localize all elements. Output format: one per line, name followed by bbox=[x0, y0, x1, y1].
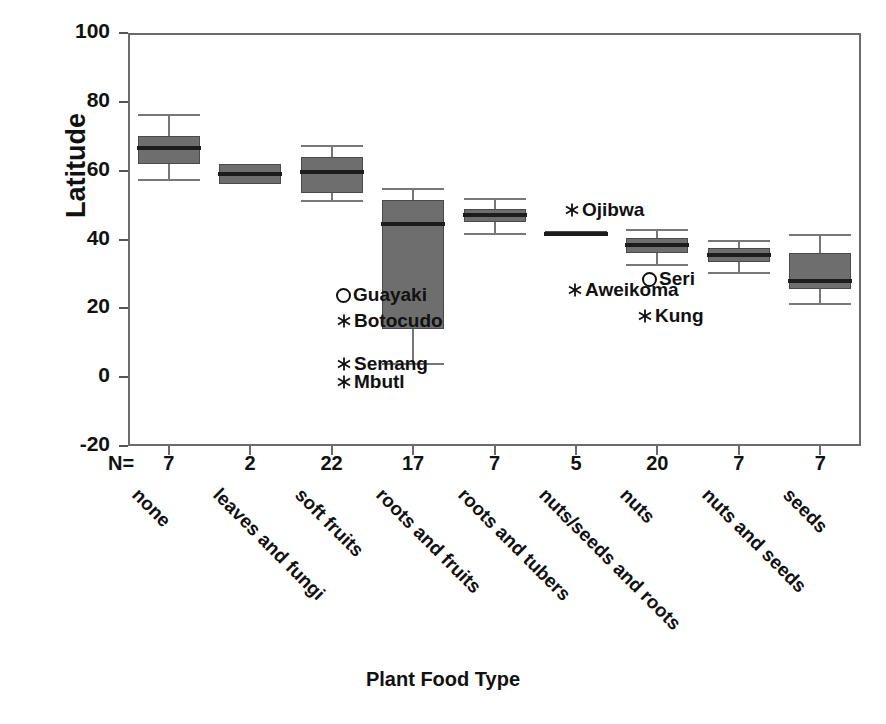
box-iqr bbox=[301, 157, 363, 193]
median-line bbox=[463, 213, 527, 217]
n-value: 5 bbox=[551, 452, 601, 475]
median-line bbox=[300, 170, 364, 174]
outlier-label-text: Kung bbox=[655, 305, 704, 327]
outlier-label-group: Guayaki bbox=[336, 284, 427, 306]
y-tick-mark bbox=[119, 170, 128, 172]
star-marker bbox=[336, 313, 352, 329]
n-value: 20 bbox=[632, 452, 682, 475]
y-tick-label: 100 bbox=[40, 19, 110, 43]
box-plot-chart: Latitude 100806040200-20 GuayakiBotocudo… bbox=[0, 0, 886, 724]
outlier-label-text: Guayaki bbox=[353, 284, 427, 306]
circle-marker bbox=[336, 288, 351, 303]
category-label: seeds bbox=[779, 484, 833, 538]
median-line bbox=[137, 146, 201, 150]
whisker-cap-lower bbox=[301, 200, 363, 202]
whisker-cap-upper bbox=[138, 114, 200, 116]
star-marker bbox=[336, 374, 352, 390]
star-marker bbox=[637, 308, 653, 324]
category-label: nuts bbox=[616, 484, 660, 528]
y-tick-mark bbox=[119, 32, 128, 34]
whisker-upper bbox=[819, 234, 821, 253]
whisker-cap-lower bbox=[789, 303, 851, 305]
y-tick-label: 60 bbox=[40, 157, 110, 181]
y-tick-mark bbox=[119, 445, 128, 447]
n-value: 22 bbox=[307, 452, 357, 475]
median-line bbox=[625, 243, 689, 247]
outlier-label-group: Seri bbox=[642, 268, 695, 290]
outlier-label-text: Ojibwa bbox=[582, 199, 644, 221]
whisker-cap-upper bbox=[301, 145, 363, 147]
outlier-label-text: Mbutl bbox=[354, 371, 405, 393]
outlier-label-group: Ojibwa bbox=[564, 199, 644, 221]
whisker-cap-lower bbox=[138, 179, 200, 181]
y-tick-mark bbox=[119, 101, 128, 103]
y-tick-label: 80 bbox=[40, 88, 110, 112]
x-axis-title: Plant Food Type bbox=[0, 668, 886, 691]
outlier-label-group: Botocudo bbox=[336, 310, 443, 332]
circle-marker bbox=[642, 272, 657, 287]
y-tick-mark bbox=[119, 376, 128, 378]
whisker-upper bbox=[168, 114, 170, 136]
median-line bbox=[218, 172, 282, 176]
whisker-lower bbox=[494, 222, 496, 232]
n-value: 7 bbox=[714, 452, 764, 475]
whisker-cap-upper bbox=[464, 198, 526, 200]
n-value: 7 bbox=[795, 452, 845, 475]
whisker-lower bbox=[168, 164, 170, 179]
outlier-label-text: Seri bbox=[659, 268, 695, 290]
star-marker bbox=[567, 282, 583, 298]
y-tick-mark bbox=[119, 239, 128, 241]
whisker-lower bbox=[819, 289, 821, 303]
category-label: none bbox=[127, 484, 175, 532]
y-tick-label: -20 bbox=[40, 432, 110, 456]
whisker-cap-upper bbox=[626, 229, 688, 231]
outlier-label-group: Mbutl bbox=[336, 371, 405, 393]
category-label: nuts/seeds and roots bbox=[534, 484, 685, 635]
n-value: 7 bbox=[470, 452, 520, 475]
box-iqr bbox=[789, 253, 851, 289]
median-line bbox=[788, 279, 852, 283]
star-marker bbox=[336, 356, 352, 372]
star-marker bbox=[564, 202, 580, 218]
n-value: 7 bbox=[144, 452, 194, 475]
whisker-lower bbox=[331, 193, 333, 200]
whisker-cap-lower bbox=[464, 233, 526, 235]
median-line bbox=[381, 222, 445, 226]
whisker-cap-upper bbox=[382, 188, 444, 190]
whisker-cap-lower bbox=[708, 272, 770, 274]
outlier-label-group: Kung bbox=[637, 305, 704, 327]
whisker-cap-upper bbox=[789, 234, 851, 236]
y-tick-label: 20 bbox=[40, 294, 110, 318]
n-value: 17 bbox=[388, 452, 438, 475]
y-tick-label: 40 bbox=[40, 226, 110, 250]
y-tick-mark bbox=[119, 307, 128, 309]
median-line bbox=[544, 232, 608, 236]
n-value: 2 bbox=[225, 452, 275, 475]
whisker-lower bbox=[738, 262, 740, 272]
category-label: soft fruits bbox=[290, 484, 368, 562]
y-tick-label: 0 bbox=[40, 363, 110, 387]
whisker-lower bbox=[656, 253, 658, 263]
whisker-cap-upper bbox=[708, 240, 770, 242]
whisker-cap-lower bbox=[626, 264, 688, 266]
outlier-label-text: Botocudo bbox=[354, 310, 443, 332]
median-line bbox=[707, 253, 771, 257]
n-header-label: N= bbox=[108, 452, 134, 475]
